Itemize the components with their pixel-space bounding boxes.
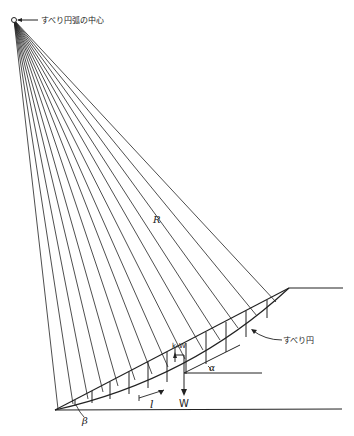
weight-arrow-icon <box>181 389 187 396</box>
weight-label: W <box>179 398 189 409</box>
slip-circle-label: すべり円 <box>283 336 314 345</box>
center-label: すべり円弧の中心 <box>41 15 104 25</box>
radius-label: R <box>152 214 161 225</box>
force-arrows <box>175 345 262 392</box>
slip-circle-diagram: すべり円弧の中心 R すべり円 kₕW W α l β <box>0 0 354 436</box>
slice-boundaries <box>75 300 267 406</box>
radial-lines <box>14 20 276 409</box>
center-marker <box>12 18 39 23</box>
slice-length-label: l <box>150 398 154 411</box>
seismic-force-label: kₕW <box>172 342 186 350</box>
arrow-left-icon <box>17 18 22 22</box>
beta-label: β <box>81 415 88 426</box>
alpha-label: α <box>209 363 215 373</box>
dimension-arrow-icon <box>158 390 164 395</box>
ground-profile <box>55 288 343 410</box>
center-point-icon <box>12 18 17 23</box>
slip-circle-pointer <box>252 330 282 340</box>
